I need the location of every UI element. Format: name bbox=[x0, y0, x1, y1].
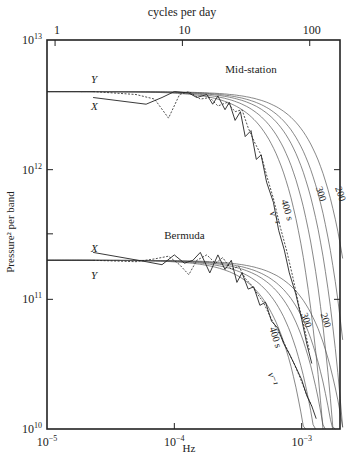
model-curve-250s bbox=[47, 260, 333, 429]
y-tick-label: 1012 bbox=[22, 162, 42, 177]
x-tick-label: 10−4 bbox=[164, 434, 185, 449]
top-tick-label: 100 bbox=[303, 23, 321, 37]
model-curve-250s bbox=[47, 92, 343, 340]
series-label-x: X bbox=[90, 242, 99, 254]
panel-label-bermuda: Bermuda bbox=[164, 229, 204, 241]
y-tick-label: 1013 bbox=[22, 32, 42, 47]
chart-labels: cycles per day Hz Pressure² per band Mid… bbox=[4, 5, 282, 454]
panel-label-mid-station: Mid-station bbox=[225, 63, 277, 75]
series-mid-station-x bbox=[93, 92, 312, 364]
data-series bbox=[47, 92, 316, 419]
x-axis-title: Hz bbox=[183, 442, 196, 454]
model-curve-200s bbox=[47, 260, 343, 427]
series-label-x: X bbox=[90, 100, 99, 112]
top-tick-label: 1 bbox=[54, 23, 60, 37]
spectrum-chart: 400 s300200400 s300200 cycles per day Hz… bbox=[0, 0, 351, 461]
y-axis-title: Pressure² per band bbox=[4, 191, 16, 273]
series-label-y: Y bbox=[91, 269, 99, 281]
nu-inverse-label: ν⁻¹ bbox=[266, 371, 280, 386]
top-tick-label: 10 bbox=[178, 23, 190, 37]
top-axis-title: cycles per day bbox=[148, 5, 217, 19]
y-tick-label: 1010 bbox=[22, 421, 42, 436]
x-tick-label: 10−5 bbox=[37, 434, 58, 449]
series-bermuda-x bbox=[93, 252, 316, 418]
nu-inverse-label: ν⁻¹ bbox=[268, 210, 282, 225]
series-label-y: Y bbox=[91, 73, 99, 85]
y-tick-label: 1011 bbox=[22, 291, 42, 306]
model-curve-400s bbox=[47, 260, 306, 429]
x-tick-label: 10−3 bbox=[291, 434, 312, 449]
